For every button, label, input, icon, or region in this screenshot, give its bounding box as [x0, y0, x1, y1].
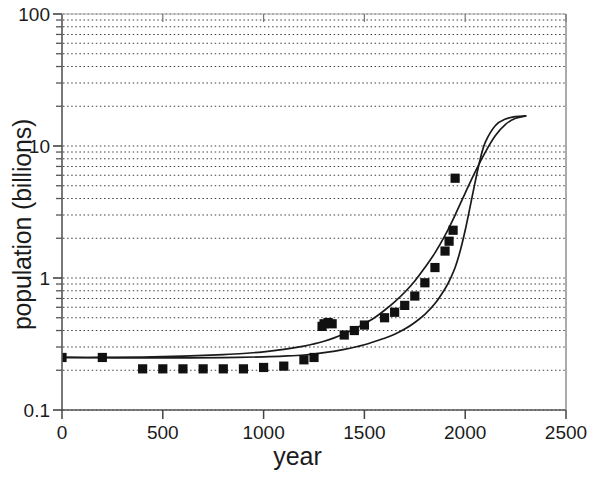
chart-plot-area: 0.111010005001000150020002500 [0, 0, 595, 488]
chart-figure: 0.111010005001000150020002500 population… [0, 0, 595, 488]
y-axis-label: population (billions) [8, 55, 37, 395]
axis-tick-labels: 0.111010005001000150020002500 [18, 4, 587, 443]
gridlines [63, 14, 565, 410]
y-tick-label: 1 [39, 268, 50, 289]
x-tick-label: 1000 [242, 422, 284, 443]
x-tick-label: 1500 [343, 422, 385, 443]
x-tick-label: 2000 [444, 422, 486, 443]
x-axis-label: year [0, 442, 595, 471]
y-tick-label: 0.1 [24, 400, 50, 421]
series-markers [57, 174, 459, 374]
x-tick-label: 2500 [545, 422, 587, 443]
x-tick-label: 500 [147, 422, 179, 443]
x-tick-label: 0 [57, 422, 68, 443]
y-tick-label: 100 [18, 4, 50, 25]
axis-lines [62, 14, 566, 410]
